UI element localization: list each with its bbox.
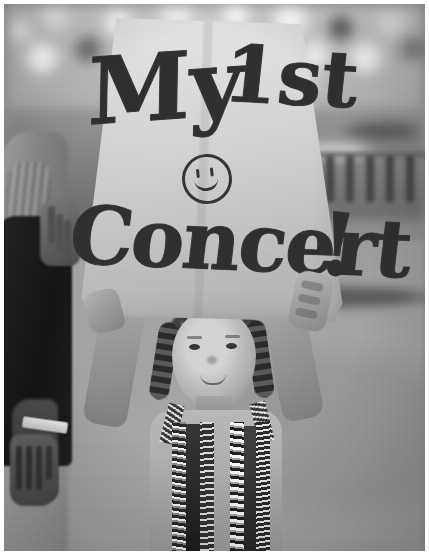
child-nose	[207, 356, 217, 364]
child-eye-right	[226, 343, 237, 349]
child-eyebrow-right	[225, 335, 240, 338]
child-sequin-stripe	[230, 422, 244, 551]
photo-frame: My 1st Concert !	[4, 4, 425, 551]
child-sequin-stripe	[200, 422, 214, 551]
adult-hand-lower	[10, 434, 58, 506]
child-eyebrow-left	[187, 336, 202, 339]
photograph-container: My 1st Concert ! My 1st Concert	[0, 0, 429, 559]
child-sequin-stripe	[172, 422, 186, 551]
child-eye-left	[189, 344, 200, 350]
child-top-dark-panel-right	[242, 426, 256, 551]
child-sequin-stripe	[256, 422, 270, 551]
